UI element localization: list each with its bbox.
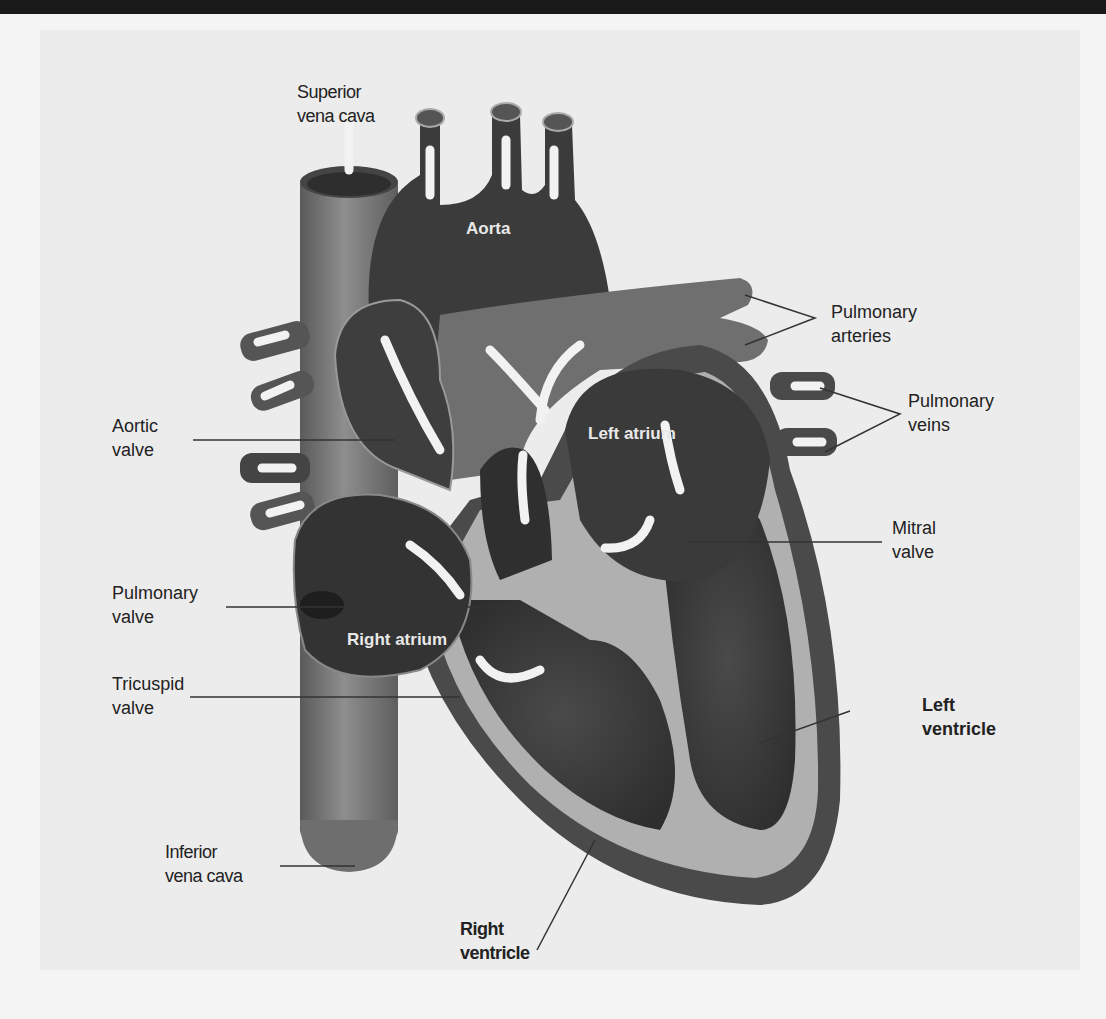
label-right-ventricle: Right ventricle [460, 917, 530, 965]
label-inferior-vena-cava: Inferior vena cava [165, 840, 243, 888]
label-left-ventricle: Left ventricle [922, 693, 996, 741]
label-line: vena cava [297, 104, 375, 128]
label-line: ventricle [922, 717, 996, 741]
label-line: ventricle [460, 941, 530, 965]
label-line: vena cava [165, 864, 243, 888]
label-superior-vena-cava: Superior vena cava [297, 80, 375, 128]
label-line: Superior [297, 80, 375, 104]
label-pulmonary-arteries: Pulmonary arteries [831, 300, 917, 348]
label-line: Tricuspid [112, 672, 184, 696]
label-aortic-valve: Aortic valve [112, 414, 158, 462]
label-line: Inferior [165, 840, 243, 864]
label-tricuspid-valve: Tricuspid valve [112, 672, 184, 720]
label-line: arteries [831, 324, 917, 348]
label-line: valve [112, 605, 198, 629]
label-pulmonary-valve: Pulmonary valve [112, 581, 198, 629]
label-line: Mitral [892, 516, 936, 540]
label-line: valve [892, 540, 936, 564]
label-left-atrium: Left atrium [588, 424, 676, 444]
label-line: valve [112, 438, 158, 462]
label-mitral-valve: Mitral valve [892, 516, 936, 564]
label-line: valve [112, 696, 184, 720]
label-line: Pulmonary [831, 300, 917, 324]
label-line: Aortic [112, 414, 158, 438]
label-line: Left [922, 693, 996, 717]
label-line: Right [460, 917, 530, 941]
label-right-atrium: Right atrium [347, 630, 447, 650]
label-line: veins [908, 413, 994, 437]
label-line: Pulmonary [112, 581, 198, 605]
label-aorta: Aorta [466, 219, 510, 239]
label-pulmonary-veins: Pulmonary veins [908, 389, 994, 437]
label-line: Pulmonary [908, 389, 994, 413]
